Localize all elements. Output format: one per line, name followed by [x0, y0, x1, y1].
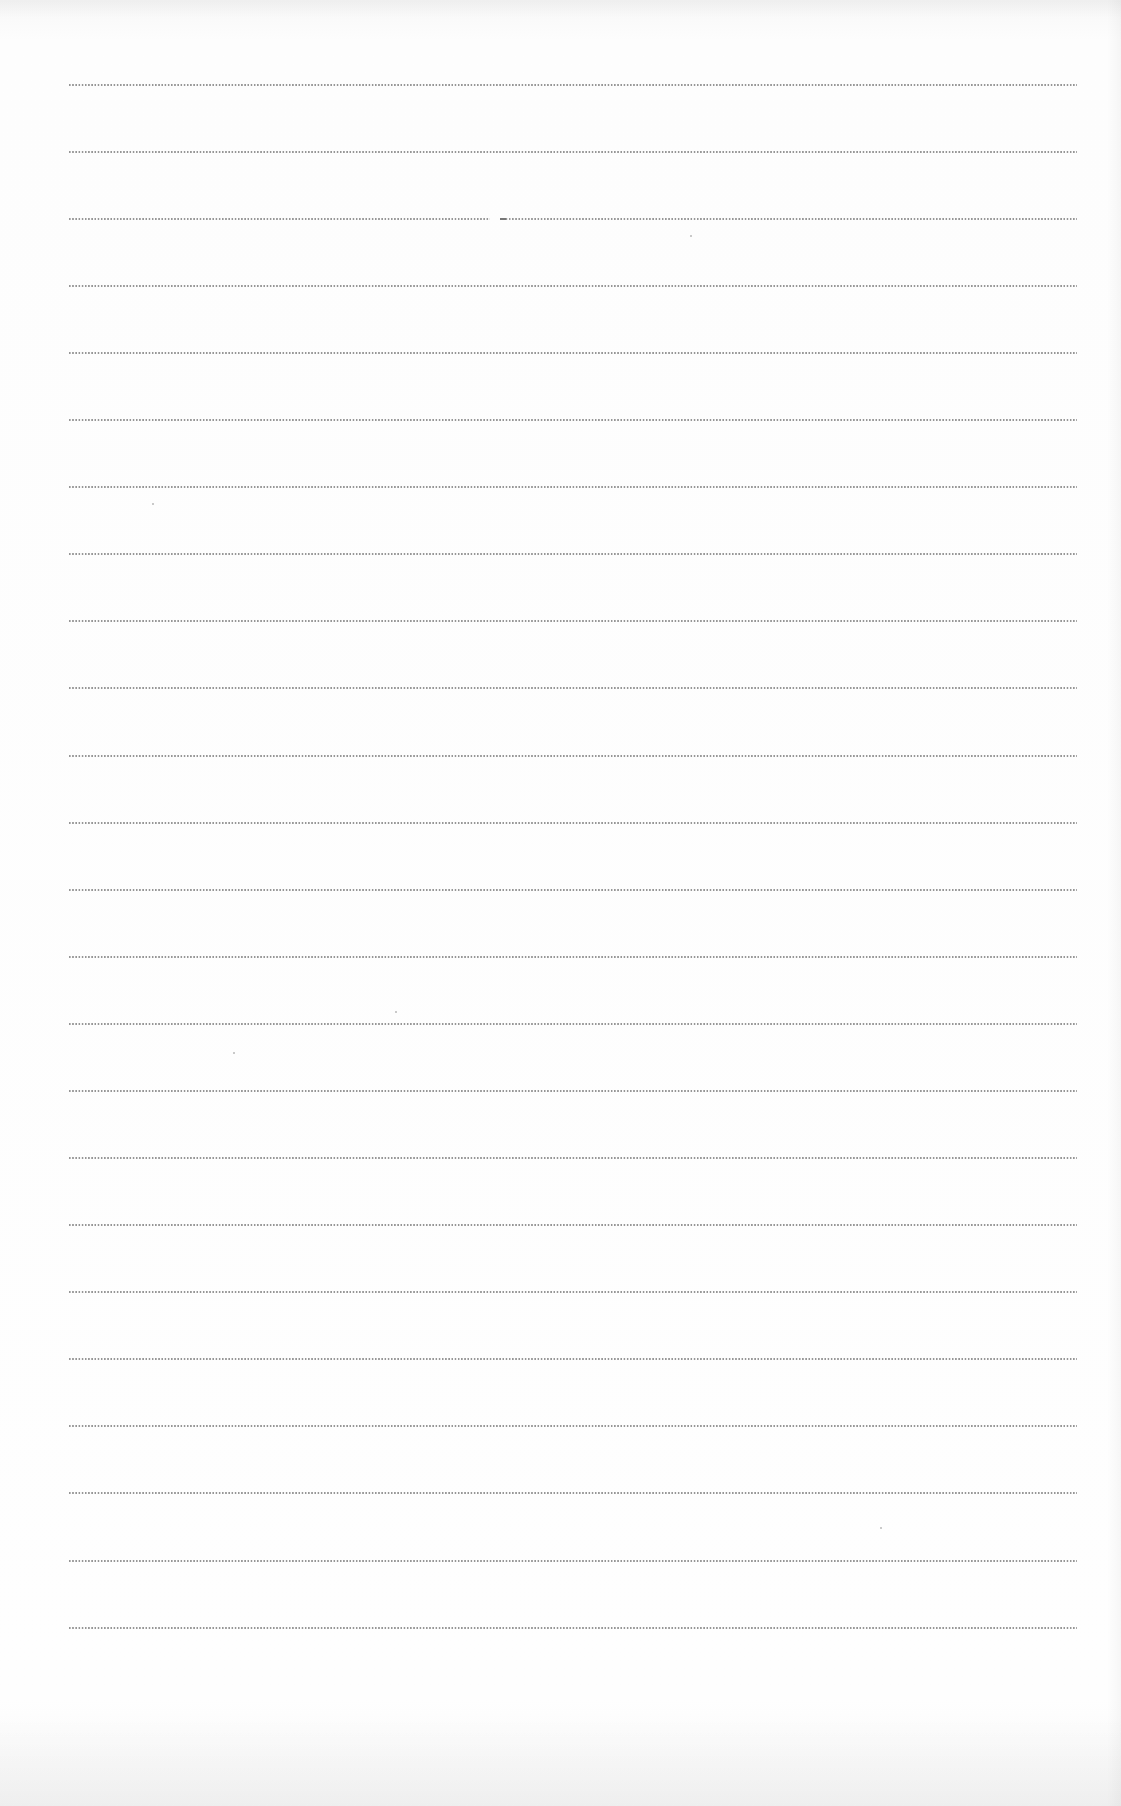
rule-gap: [490, 217, 500, 221]
page-shadow-bottom: [0, 1716, 1121, 1806]
dotted-rule-line: [69, 1157, 1077, 1159]
dotted-rule-line: [69, 1023, 1077, 1025]
paper-speck: [233, 1052, 235, 1054]
page-shadow-top: [0, 0, 1121, 18]
dotted-rule-line: [69, 218, 1077, 220]
dotted-rule-line: [69, 1425, 1077, 1427]
dotted-rule-line: [69, 419, 1077, 421]
dotted-rule-line: [69, 1090, 1077, 1092]
paper-speck: [880, 1527, 882, 1529]
dotted-rule-line: [69, 956, 1077, 958]
paper-speck: [395, 1011, 397, 1013]
dotted-rule-line: [69, 755, 1077, 757]
dotted-rule-line: [69, 352, 1077, 354]
dotted-rule-line: [69, 1627, 1077, 1629]
dotted-rule-line: [69, 889, 1077, 891]
dotted-rule-line: [69, 1492, 1077, 1494]
rule-dash-mark: [500, 218, 506, 220]
dotted-rule-line: [69, 1560, 1077, 1562]
dotted-rule-line: [69, 84, 1077, 86]
dotted-rule-line: [69, 285, 1077, 287]
dotted-rule-line: [69, 486, 1077, 488]
lined-page: [0, 0, 1121, 1806]
dotted-rule-line: [69, 620, 1077, 622]
dotted-rule-line: [69, 822, 1077, 824]
dotted-rule-line: [69, 553, 1077, 555]
page-shadow-right: [1107, 0, 1121, 1806]
dotted-rule-line: [69, 687, 1077, 689]
dotted-rule-line: [69, 1291, 1077, 1293]
dotted-rule-line: [69, 1224, 1077, 1226]
dotted-rule-line: [69, 151, 1077, 153]
paper-speck: [152, 503, 154, 505]
dotted-rule-line: [69, 1358, 1077, 1360]
paper-speck: [690, 235, 692, 237]
